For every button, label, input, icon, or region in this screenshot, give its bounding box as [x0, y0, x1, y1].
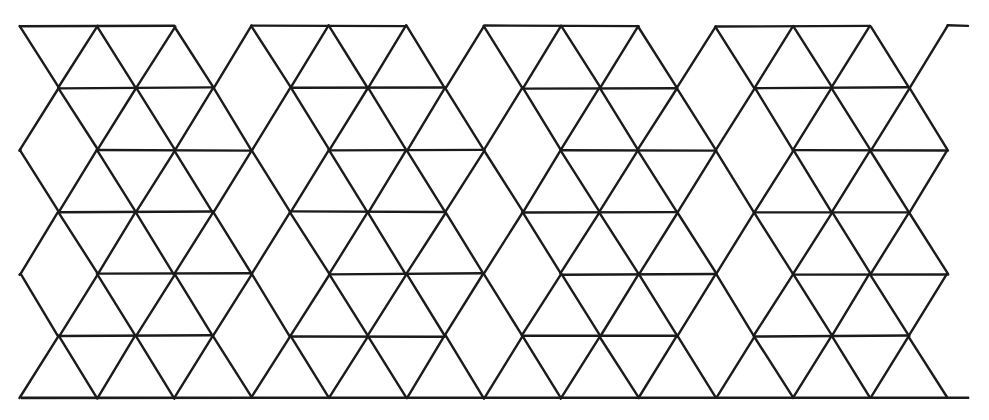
tile-edge [59, 211, 213, 212]
tile-edge [20, 26, 175, 27]
tile-edge [97, 150, 252, 151]
tile-edge [754, 87, 909, 88]
tile-edge [251, 26, 406, 27]
tile-edge [716, 26, 870, 27]
tile-edge [948, 25, 968, 26]
tile-edge [755, 335, 909, 336]
tile-edge [290, 211, 444, 212]
tile-edge [330, 273, 484, 274]
tile-edge [329, 150, 484, 151]
tiling-figure [0, 0, 989, 420]
tile-edge [59, 335, 213, 336]
tile-edge [561, 274, 716, 275]
tile-edge [484, 26, 638, 27]
tiling-canvas [0, 0, 989, 420]
tile-edge [58, 87, 213, 88]
tile-edge [20, 274, 21, 275]
